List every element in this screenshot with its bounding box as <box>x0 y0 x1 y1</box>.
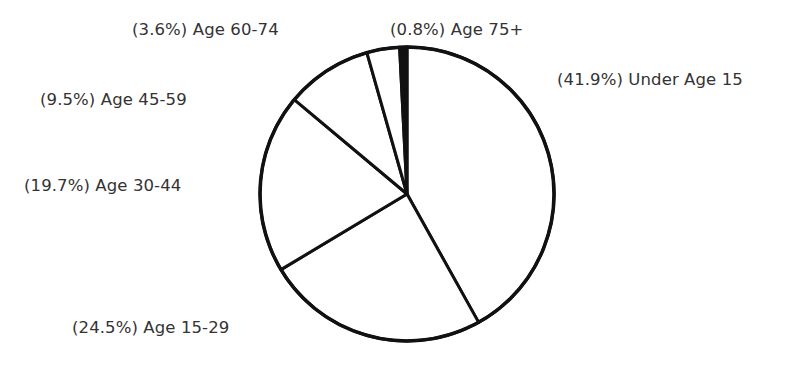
label-15-29: (24.5%) Age 15-29 <box>72 318 229 337</box>
label-45-59: (9.5%) Age 45-59 <box>40 90 187 109</box>
label-60-74: (3.6%) Age 60-74 <box>132 20 279 39</box>
label-under-15: (41.9%) Under Age 15 <box>557 70 743 89</box>
label-30-44: (19.7%) Age 30-44 <box>24 176 181 195</box>
label-75-plus: (0.8%) Age 75+ <box>390 20 523 39</box>
